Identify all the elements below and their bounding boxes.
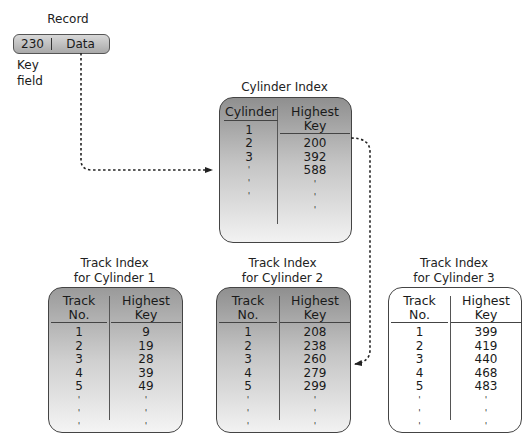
arrow-cylinder-to-track-index-2 bbox=[351, 138, 370, 364]
arrow-record-to-cylinder-index bbox=[81, 53, 212, 170]
arrows-layer bbox=[0, 0, 526, 445]
